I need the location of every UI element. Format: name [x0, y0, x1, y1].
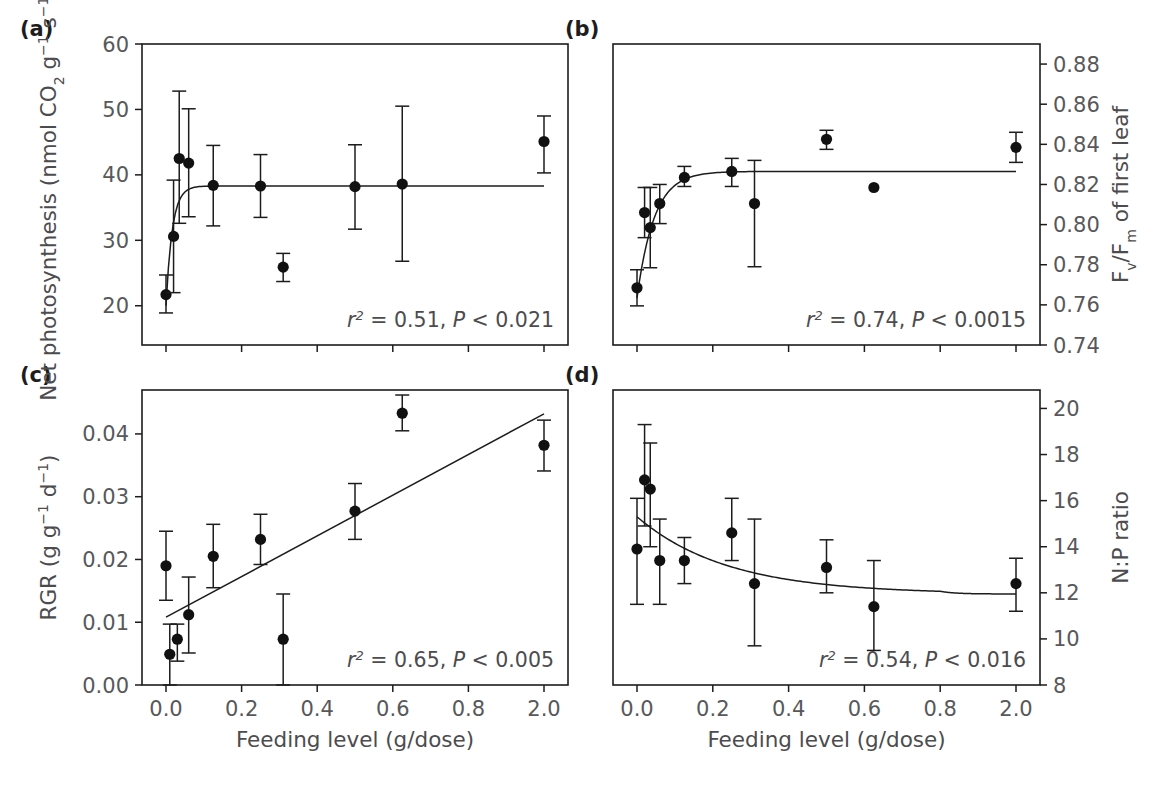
y-tick-label-d-4: 16: [1053, 489, 1080, 513]
x-tick-label-c-3: 0.6: [376, 697, 409, 721]
y-tick-label-d-1: 10: [1053, 627, 1080, 651]
y-tick-label-b-4: 0.82: [1053, 173, 1100, 197]
four-panel-figure: (a)2030405060r2 = 0.51, P < 0.021(b)0.74…: [0, 0, 1156, 792]
panel-label-b: (b): [565, 17, 599, 41]
x-tick-label-c-4: 0.8: [452, 697, 485, 721]
y-tick-label-b-0: 0.74: [1053, 334, 1100, 358]
data-point-group-d-8: [867, 561, 881, 651]
panel-b: (b)0.740.760.780.800.820.840.860.88r2 = …: [565, 17, 1100, 358]
figure-container: (a)2030405060r2 = 0.51, P < 0.021(b)0.74…: [0, 0, 1156, 792]
y-tick-label-b-5: 0.84: [1053, 133, 1100, 157]
y-tick-label-a-0: 20: [102, 294, 129, 318]
data-point-group-b-8: [868, 182, 879, 193]
data-point-group-c-1: [163, 624, 177, 685]
y-tick-label-a-2: 40: [102, 163, 129, 187]
data-point-group-a-8: [395, 106, 409, 261]
stat-p-symbol-b: P: [912, 308, 925, 332]
data-point-group-a-2: [172, 91, 186, 223]
data-point-marker-c-9: [538, 440, 549, 451]
y-tick-label-c-3: 0.03: [82, 485, 129, 509]
data-point-marker-d-2: [645, 484, 656, 495]
caption-strip-background: [0, 770, 1156, 792]
stat-r2-value-c: = 0.65,: [364, 648, 453, 672]
data-point-group-a-5: [254, 155, 268, 218]
x-tick-label-d-1: 0.2: [696, 697, 729, 721]
stat-p-value-b: < 0.0015: [924, 308, 1026, 332]
y-tick-label-d-0: 8: [1053, 674, 1066, 698]
data-point-group-a-4: [206, 145, 220, 225]
ylabel-a-mid2: s: [36, 17, 61, 35]
y-tick-label-c-0: 0.00: [82, 674, 129, 698]
data-point-marker-b-0: [631, 282, 642, 293]
data-point-group-a-0: [159, 275, 173, 313]
stat-p-symbol-d: P: [925, 648, 938, 672]
data-point-group-d-3: [653, 519, 667, 604]
x-tick-label-c-5: 2.0: [527, 697, 560, 721]
y-axis-label-c: RGR (g g−1 d−1): [35, 454, 61, 620]
data-point-marker-c-3: [183, 609, 194, 620]
ylabel-c-sup-1: −1: [35, 504, 51, 525]
data-point-marker-c-6: [278, 634, 289, 645]
data-point-marker-a-6: [278, 262, 289, 273]
y-tick-label-c-4: 0.04: [82, 422, 129, 446]
data-point-group-c-5: [254, 514, 268, 564]
data-point-group-a-6: [276, 253, 290, 281]
data-point-marker-d-4: [679, 555, 690, 566]
stat-annotation-b: r2 = 0.74, P < 0.0015: [806, 308, 1026, 333]
stat-r2-value-a: = 0.51,: [364, 308, 453, 332]
ylabel-b-F: F: [1108, 271, 1133, 283]
data-point-marker-d-9: [1010, 578, 1021, 589]
data-point-marker-c-7: [349, 506, 360, 517]
data-point-marker-a-0: [160, 289, 171, 300]
stat-r2-value-b: = 0.74,: [823, 308, 912, 332]
ylabel-a-sup-1: −1: [35, 35, 51, 56]
y-tick-label-b-6: 0.86: [1053, 93, 1100, 117]
data-point-marker-a-3: [183, 157, 194, 168]
stat-r2-value-d: = 0.54,: [836, 648, 925, 672]
data-point-marker-a-9: [538, 136, 549, 147]
data-point-marker-c-1: [164, 649, 175, 660]
data-point-marker-a-4: [208, 180, 219, 191]
x-tick-label-d-5: 2.0: [999, 697, 1032, 721]
ylabel-c-sup-2: −1: [35, 463, 51, 484]
stat-p-value-d: < 0.016: [937, 648, 1026, 672]
stat-p-value-c: < 0.005: [465, 648, 554, 672]
x-axis-label-d: Feeding level (g/dose): [707, 727, 945, 752]
data-point-group-b-9: [1009, 132, 1023, 162]
y-tick-label-a-4: 60: [102, 33, 129, 57]
data-point-marker-a-7: [349, 181, 360, 192]
data-point-group-c-3: [182, 577, 196, 653]
ylabel-a-prefix: Net photosynthesis (nmol CO: [36, 85, 61, 401]
panel-label-d: (d): [565, 363, 599, 387]
ylabel-c-suffix: ): [36, 454, 61, 462]
data-point-group-d-6: [747, 519, 761, 646]
y-tick-label-d-3: 14: [1053, 535, 1080, 559]
data-point-marker-a-5: [255, 180, 266, 191]
data-point-marker-b-3: [654, 198, 665, 209]
data-point-marker-c-5: [255, 534, 266, 545]
data-point-marker-d-5: [726, 527, 737, 538]
x-axis-label-c: Feeding level (g/dose): [236, 727, 474, 752]
data-point-group-b-6: [747, 160, 761, 266]
ylabel-a-sup-2: −1: [35, 0, 51, 17]
data-point-group-b-0: [630, 270, 644, 306]
data-point-group-b-2: [643, 187, 657, 267]
stat-p-symbol-c: P: [453, 648, 466, 672]
x-tick-label-c-1: 0.2: [225, 697, 258, 721]
data-point-marker-c-8: [397, 408, 408, 419]
ylabel-b-sub-v: v: [1123, 262, 1139, 270]
panel-a: (a)2030405060r2 = 0.51, P < 0.021: [20, 17, 568, 352]
stat-annotation-c: r2 = 0.65, P < 0.005: [347, 648, 554, 673]
y-axis-label-a: Net photosynthesis (nmol CO2 g−1 s−1): [35, 0, 67, 401]
panel-c: (c)0.000.010.020.030.04r2 = 0.65, P < 0.…: [20, 363, 568, 698]
x-tick-label-d-2: 0.4: [772, 697, 805, 721]
y-tick-label-b-1: 0.76: [1053, 293, 1100, 317]
data-point-marker-b-4: [679, 172, 690, 183]
data-point-marker-c-4: [208, 551, 219, 562]
data-point-marker-b-9: [1010, 142, 1021, 153]
data-point-marker-d-6: [749, 578, 760, 589]
data-point-group-c-7: [348, 484, 362, 540]
data-point-group-c-9: [537, 420, 551, 471]
data-point-marker-d-7: [821, 562, 832, 573]
data-point-marker-b-6: [749, 198, 760, 209]
